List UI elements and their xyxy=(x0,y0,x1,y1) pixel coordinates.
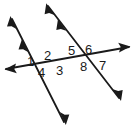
parallel-line-right xyxy=(45,3,123,101)
parallel-line-right-segment xyxy=(48,6,119,98)
angle-label-6: 6 xyxy=(85,43,92,56)
parallel-right-arrow-upper-icon xyxy=(45,3,55,15)
geometry-canvas xyxy=(0,0,133,131)
angle-label-2: 2 xyxy=(44,49,51,62)
geometry-diagram: 1 2 3 4 5 6 7 8 xyxy=(0,0,133,131)
parallel-right-tick-icon xyxy=(56,19,66,31)
angle-label-5: 5 xyxy=(68,44,75,57)
angle-label-3: 3 xyxy=(56,64,63,77)
angle-label-4: 4 xyxy=(38,66,45,79)
parallel-right-arrow-lower-icon xyxy=(113,89,123,101)
angle-label-8: 8 xyxy=(80,60,87,73)
parallel-left-arrow-upper-icon xyxy=(7,16,17,29)
angle-label-1: 1 xyxy=(27,55,34,68)
angle-label-7: 7 xyxy=(99,59,106,72)
